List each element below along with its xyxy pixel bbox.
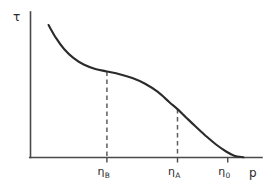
eta-0-subscript: 0: [225, 171, 230, 180]
x-tick-label-eta-0: η0: [218, 166, 230, 177]
eta-b-base: η: [97, 165, 104, 178]
eta-a-base: η: [168, 165, 175, 178]
data-curve-tau-vs-p: [49, 25, 244, 157]
chart-figure: τ p ηB ηA η0: [0, 0, 274, 189]
eta-a-subscript: A: [175, 171, 180, 180]
x-tick-label-eta-b: ηB: [97, 166, 109, 177]
eta-b-subscript: B: [105, 171, 110, 180]
y-axis-label: τ: [13, 11, 20, 23]
chart-plot-area: [0, 0, 274, 189]
x-axis-label: p: [249, 167, 257, 179]
x-tick-label-eta-a: ηA: [168, 166, 180, 177]
